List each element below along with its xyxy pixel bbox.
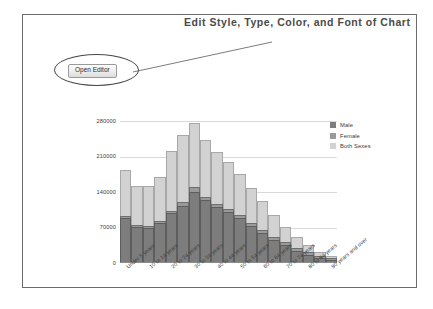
bar-segment[interactable] bbox=[143, 186, 154, 226]
bar-segment[interactable] bbox=[223, 209, 234, 213]
bar-group[interactable] bbox=[223, 162, 234, 263]
bar-segment[interactable] bbox=[120, 216, 131, 218]
bar-segment[interactable] bbox=[268, 237, 279, 240]
legend-item[interactable]: Female bbox=[330, 132, 400, 140]
bar-segment[interactable] bbox=[211, 152, 222, 203]
y-axis-tick-label: 210000 bbox=[96, 153, 116, 159]
bar-group[interactable] bbox=[200, 140, 211, 263]
bar-segment[interactable] bbox=[177, 202, 188, 206]
y-axis-tick-label: 140000 bbox=[96, 189, 116, 195]
bar-segment[interactable] bbox=[234, 174, 245, 215]
bar-segment[interactable] bbox=[154, 177, 165, 222]
annotation-title: Edit Style, Type, Color, and Font of Cha… bbox=[184, 16, 411, 28]
bar-segment[interactable] bbox=[257, 230, 268, 233]
bar-segment[interactable] bbox=[246, 223, 257, 226]
callout-leader-line bbox=[133, 41, 273, 73]
bar-segment[interactable] bbox=[211, 204, 222, 208]
legend-swatch-icon bbox=[330, 143, 336, 149]
bar-segment[interactable] bbox=[200, 197, 211, 201]
bar-segment[interactable] bbox=[189, 187, 200, 192]
screenshot-root: Open Editor 070000140000210000280000 Und… bbox=[0, 0, 433, 309]
legend-swatch-icon bbox=[330, 122, 336, 128]
bars-layer bbox=[120, 121, 337, 263]
bar-segment[interactable] bbox=[326, 256, 337, 258]
bar-group[interactable] bbox=[177, 135, 188, 263]
bar-segment[interactable] bbox=[120, 218, 131, 263]
bar-segment[interactable] bbox=[131, 225, 142, 227]
bar-segment[interactable] bbox=[166, 151, 177, 210]
y-axis-tick-label: 70000 bbox=[100, 224, 116, 230]
bar-segment[interactable] bbox=[166, 211, 177, 214]
bar-segment[interactable] bbox=[257, 201, 268, 229]
chart-legend: MaleFemaleBoth Sexes bbox=[330, 121, 400, 153]
bar-segment[interactable] bbox=[189, 123, 200, 188]
bar-segment[interactable] bbox=[234, 215, 245, 218]
bar-segment[interactable] bbox=[120, 170, 131, 216]
bar-group[interactable] bbox=[120, 170, 131, 263]
bar-segment[interactable] bbox=[131, 186, 142, 225]
bar-segment[interactable] bbox=[234, 218, 245, 263]
slide-frame: Open Editor 070000140000210000280000 Und… bbox=[22, 14, 417, 288]
bar-segment[interactable] bbox=[143, 226, 154, 228]
y-axis-tick-label: 0 bbox=[113, 260, 116, 266]
y-axis-tick-label: 280000 bbox=[96, 118, 116, 124]
bar-segment[interactable] bbox=[223, 162, 234, 209]
legend-swatch-icon bbox=[330, 133, 336, 139]
open-editor-button[interactable]: Open Editor bbox=[68, 64, 117, 78]
bar-segment[interactable] bbox=[177, 135, 188, 202]
bar-segment[interactable] bbox=[268, 215, 279, 237]
bar-segment[interactable] bbox=[154, 221, 165, 223]
plot-area bbox=[120, 121, 337, 263]
bar-segment[interactable] bbox=[280, 227, 291, 243]
legend-item[interactable]: Both Sexes bbox=[330, 142, 400, 150]
bar-segment[interactable] bbox=[200, 140, 211, 197]
x-axis: Under 5 years10 to 14 years20 to 24 year… bbox=[120, 265, 337, 309]
legend-label: Male bbox=[340, 122, 353, 128]
y-axis: 070000140000210000280000 bbox=[83, 121, 116, 263]
legend-item[interactable]: Male bbox=[330, 121, 400, 129]
legend-label: Female bbox=[340, 133, 360, 139]
legend-label: Both Sexes bbox=[340, 143, 371, 149]
bar-segment[interactable] bbox=[246, 188, 257, 222]
